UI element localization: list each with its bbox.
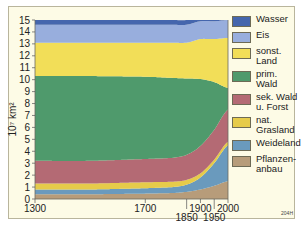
legend-label: Wasser (256, 14, 288, 24)
y-tick-label: 4 (24, 146, 30, 157)
y-tick-label: 12 (19, 50, 31, 61)
legend-item-nat-grasland: nat. Grasland (232, 115, 298, 135)
y-tick-label: 11 (20, 62, 31, 73)
y-tick-label: 3 (24, 158, 30, 169)
legend-swatch-eis (232, 32, 251, 43)
x-tick-label: 1300 (24, 203, 47, 214)
legend-label: sek. Wald u. Forst (256, 92, 297, 112)
legend-swatch-weideland (232, 140, 251, 151)
y-tick-label: 2 (24, 170, 30, 181)
y-tick-label: 14 (19, 26, 31, 37)
legend-label: Weideland (256, 138, 301, 148)
figure-code: 204H (281, 210, 293, 216)
legend-swatch-sonst-land (232, 48, 251, 59)
legend-swatch-prim-wald (232, 71, 251, 82)
legend-label: sonst. Land (256, 46, 281, 66)
legend-item-wasser: Wasser (232, 14, 298, 27)
legend-item-sek-wald: sek. Wald u. Forst (232, 92, 298, 112)
y-tick-label: 13 (19, 38, 31, 49)
legend-item-pflanzenanbau: Pflanzen- anbau (232, 154, 298, 174)
y-tick-label: 5 (24, 134, 30, 145)
x-tick-label: 2000 (217, 203, 240, 214)
legend-swatch-nat-grasland (232, 117, 251, 128)
legend-swatch-wasser (232, 16, 251, 27)
legend-item-eis: Eis (232, 30, 298, 43)
legend-label: prim. Wald (256, 69, 277, 89)
legend: Wasser Eis sonst. Land prim. Wald sek. W… (232, 14, 298, 177)
y-tick-label: 10 (19, 74, 31, 85)
y-axis-label: 10⁷ km² (7, 102, 18, 137)
y-tick-label: 6 (24, 122, 30, 133)
legend-item-sonst-land: sonst. Land (232, 46, 298, 66)
y-tick-label: 15 (19, 15, 31, 26)
x-tick-label: 1700 (134, 203, 157, 214)
y-tick-label: 7 (24, 110, 30, 121)
legend-swatch-pflanzenanbau (232, 156, 251, 167)
y-tick-label: 8 (24, 98, 30, 109)
legend-swatch-sek-wald (232, 94, 251, 105)
legend-label: nat. Grasland (256, 115, 295, 135)
y-tick-label: 1 (24, 182, 30, 193)
legend-label: Pflanzen- anbau (256, 154, 296, 174)
y-tick-label: 9 (24, 86, 30, 97)
legend-item-prim-wald: prim. Wald (232, 69, 298, 89)
legend-item-weideland: Weideland (232, 138, 298, 151)
legend-label: Eis (256, 30, 269, 40)
